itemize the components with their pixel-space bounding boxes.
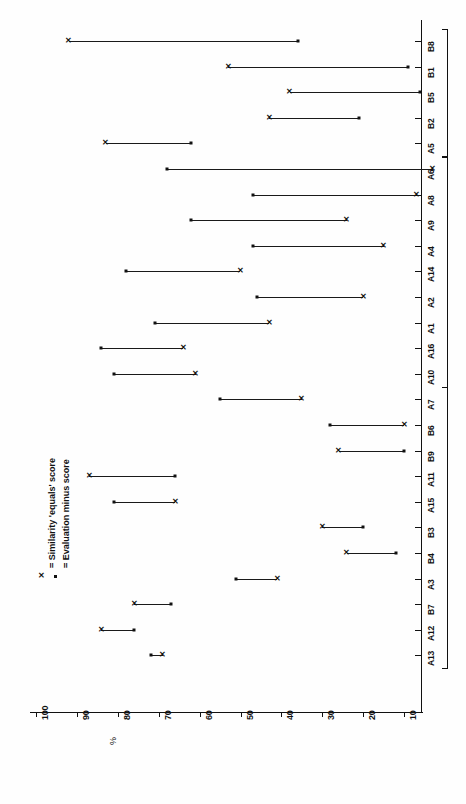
range-connector-line (330, 425, 404, 426)
similarity-score-marker: ✕ (86, 472, 93, 480)
similarity-score-marker: ✕ (225, 63, 232, 71)
category-axis-label: B3 (426, 528, 436, 538)
range-connector-line (220, 399, 302, 400)
evaluation-minus-score-marker (362, 526, 365, 529)
value-axis-tick-label: 70 (163, 711, 173, 720)
category-axis-label: A11 (426, 473, 436, 488)
range-connector-line (228, 67, 408, 68)
category-axis-label: A2 (426, 298, 436, 308)
range-connector-line (101, 348, 183, 349)
similarity-score-marker: ✕ (343, 216, 350, 224)
similarity-score-marker: ✕ (335, 447, 342, 455)
legend-label: = Evaluation minus score (61, 459, 71, 568)
value-axis-tick-label: 30 (326, 711, 336, 720)
data-row: ✕ (0, 348, 466, 349)
evaluation-minus-score-marker (407, 65, 410, 68)
range-connector-line (269, 118, 359, 119)
value-axis-tick (241, 713, 242, 717)
range-connector-line (155, 323, 270, 324)
similarity-score-marker: ✕ (102, 139, 109, 147)
range-connector-line (101, 630, 134, 631)
evaluation-minus-score-marker (169, 603, 172, 606)
category-axis-label: A3 (426, 579, 436, 589)
range-connector-line (106, 143, 192, 144)
range-connector-line (114, 502, 175, 503)
evaluation-minus-score-marker (100, 347, 103, 350)
similarity-score-marker: ✕ (360, 293, 367, 301)
evaluation-minus-score-marker (153, 321, 156, 324)
data-row: ✕ (0, 655, 466, 656)
similarity-score-marker: ✕ (286, 88, 293, 96)
evaluation-minus-score-marker (329, 424, 332, 427)
range-connector-line (69, 41, 298, 42)
data-row: ✕ (0, 41, 466, 42)
similarity-score-marker: ✕ (380, 242, 387, 250)
evaluation-minus-score-marker (403, 449, 406, 452)
category-axis-label: B1 (426, 67, 436, 77)
data-row: ✕ (0, 323, 466, 324)
category-axis-label: A13 (426, 651, 436, 666)
category-axis-label: A10 (426, 370, 436, 385)
category-axis-label: A8 (426, 195, 436, 205)
similarity-score-marker: ✕ (266, 114, 273, 122)
data-row: ✕ (0, 271, 466, 272)
data-row: ✕ (0, 630, 466, 631)
evaluation-minus-score-marker (190, 142, 193, 145)
similarity-score-marker: ✕ (65, 37, 72, 45)
range-connector-line (236, 579, 277, 580)
category-group-bracket (442, 387, 448, 669)
evaluation-minus-score-marker (133, 628, 136, 631)
value-axis-tick-label: 90 (81, 711, 91, 720)
range-connector-line (339, 451, 404, 452)
similarity-score-marker: ✕ (298, 395, 305, 403)
category-axis-label: B8 (426, 42, 436, 52)
data-row: ✕ (0, 425, 466, 426)
range-connector-line (191, 220, 346, 221)
category-axis-label: B2 (426, 118, 436, 128)
category-axis-label: A14 (426, 267, 436, 282)
value-axis-tick-label: 40 (285, 711, 295, 720)
data-row: ✕ (0, 169, 466, 170)
similarity-score-marker: ✕ (159, 651, 166, 659)
similarity-score-marker: ✕ (266, 319, 273, 327)
similarity-score-marker: ✕ (429, 165, 436, 173)
evaluation-minus-score-marker (394, 552, 397, 555)
category-axis-line (421, 20, 422, 712)
legend-similarity-marker-icon: ✕ (38, 572, 45, 580)
value-axis-tick-label: 10 (408, 711, 418, 720)
value-axis-tick-label: 100 (40, 706, 50, 720)
range-connector-line (114, 374, 196, 375)
data-row: ✕ (0, 220, 466, 221)
range-connector-line (253, 195, 417, 196)
evaluation-minus-score-marker (219, 398, 222, 401)
range-connector-line (126, 271, 241, 272)
data-row: ✕ (0, 374, 466, 375)
range-connector-line (167, 169, 433, 170)
category-axis-label: A7 (426, 400, 436, 410)
data-row: ✕ (0, 246, 466, 247)
evaluation-minus-score-marker (251, 193, 254, 196)
value-axis-tick-label: 20 (367, 711, 377, 720)
data-row: ✕ (0, 92, 466, 93)
category-axis-label: B4 (426, 554, 436, 564)
value-axis-tick (281, 713, 282, 717)
value-axis-tick (36, 713, 37, 717)
value-axis-tick (363, 713, 364, 717)
value-axis-tick (77, 713, 78, 717)
category-axis-label: A16 (426, 344, 436, 359)
value-axis-tick (159, 713, 160, 717)
similarity-score-marker: ✕ (192, 370, 199, 378)
value-axis-tick (118, 713, 119, 717)
range-connector-line (322, 527, 363, 528)
data-row: ✕ (0, 399, 466, 400)
chart-figure: 100908070605040302010%B8✕B1✕B5✕B2✕A5✕A6✕… (0, 0, 466, 804)
data-row: ✕ (0, 195, 466, 196)
range-connector-line (290, 92, 421, 93)
range-connector-line (257, 297, 363, 298)
category-axis-label: A4 (426, 246, 436, 256)
data-row: ✕ (0, 579, 466, 580)
data-row: ✕ (0, 143, 466, 144)
category-axis-label: B7 (426, 605, 436, 615)
evaluation-minus-score-marker (190, 219, 193, 222)
category-axis-label: B6 (426, 426, 436, 436)
